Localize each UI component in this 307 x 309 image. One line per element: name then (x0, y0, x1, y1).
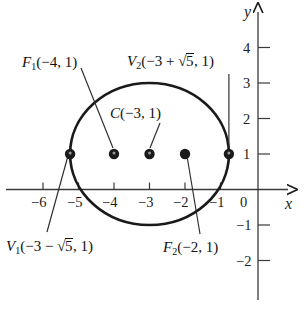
x-tick-label--4: −4 (102, 195, 117, 210)
vertex2-symbol: V2 (127, 53, 141, 69)
y-tick-label--1: −1 (236, 218, 251, 233)
focus1-symbol: F1 (22, 54, 36, 70)
x-axis-ticks (43, 183, 221, 190)
y-tick-label-3: 3 (243, 76, 250, 91)
y-axis-name: y (244, 4, 251, 20)
vertex2-suffix: , 1) (194, 53, 214, 69)
leader-f1 (81, 68, 113, 148)
ellipse-figure: −6 −5 −4 −3 −2 −1 0 4 3 2 1 −1 −2 y x F1… (0, 0, 307, 309)
y-axis-ticks (258, 48, 270, 261)
x-tick-label--3: −3 (138, 195, 153, 210)
y-tick-label-1: 1 (243, 147, 250, 162)
x-axis-name: x (285, 196, 292, 212)
focus1-coords: (−4, 1) (36, 54, 77, 70)
focus2-label: F2(−2, 1) (163, 240, 218, 257)
y-tick-label-2: 2 (243, 112, 250, 127)
vertex2-radicand: 5 (186, 53, 195, 70)
vertex2-prefix: (−3 + (141, 53, 178, 69)
y-tick-label--2: −2 (236, 254, 251, 269)
vertex2-label: V2(−3 + √5, 1) (127, 53, 214, 71)
plot-canvas (0, 0, 307, 309)
leader-f2 (186, 150, 200, 234)
x-tick-label-0: 0 (240, 195, 247, 210)
vertex1-radicand: 5 (65, 238, 74, 255)
leader-v1 (47, 150, 70, 232)
focus1-label: F1(−4, 1) (22, 55, 77, 72)
leader-c (150, 123, 160, 148)
x-tick-label--2: −2 (173, 195, 188, 210)
x-tick-label--1: −1 (209, 195, 224, 210)
center-label: C(−3, 1) (110, 106, 161, 121)
point-highlights (69, 152, 231, 155)
x-tick-label--5: −5 (67, 195, 82, 210)
vertex1-suffix: , 1) (73, 238, 93, 254)
vertex1-label: V1(−3 − √5, 1) (6, 238, 93, 256)
point-f2 (180, 149, 190, 159)
y-tick-label-4: 4 (243, 41, 250, 56)
focus2-symbol: F2 (163, 239, 177, 255)
vertex1-symbol: V1 (6, 238, 20, 254)
focus2-coords: (−2, 1) (177, 239, 218, 255)
center-coords: (−3, 1) (120, 105, 161, 121)
vertex1-prefix: (−3 − (20, 238, 57, 254)
center-symbol: C (110, 105, 120, 121)
x-tick-label--6: −6 (31, 195, 46, 210)
